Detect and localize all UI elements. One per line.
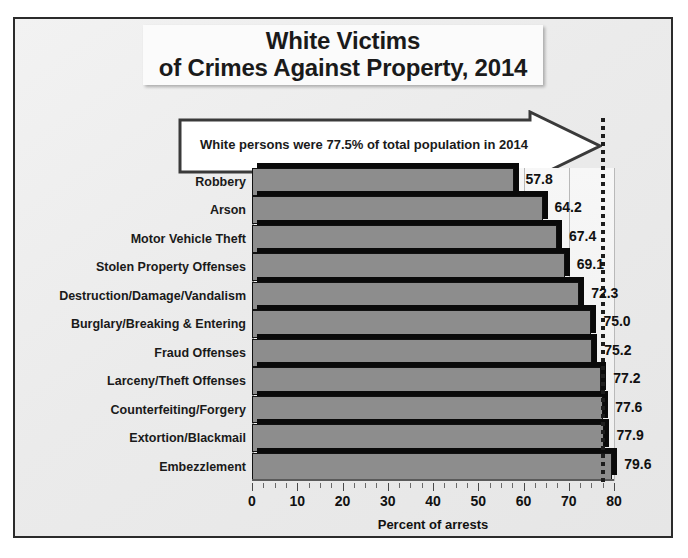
category-label-7: Fraud Offenses (24, 339, 246, 367)
minor-tick-77.5 (603, 483, 604, 488)
chart-screenshot: White Victims of Crimes Against Property… (0, 0, 688, 558)
category-label-11: Embezzlement (24, 453, 246, 481)
category-label-9: Counterfeiting/Forgery (24, 396, 246, 424)
x-tick-label-60: 60 (504, 493, 544, 509)
minor-tick-55 (501, 483, 502, 488)
minor-tick-2.5 (263, 483, 264, 488)
minor-tick-7.5 (286, 483, 287, 488)
major-tick-80 (614, 483, 615, 491)
minor-tick-12.5 (309, 483, 310, 488)
callout-text: White persons were 77.5% of total popula… (200, 129, 530, 159)
x-axis-line (252, 479, 614, 481)
value-label-3: 67.4 (569, 222, 596, 250)
major-tick-30 (388, 483, 389, 491)
major-tick-70 (569, 483, 570, 491)
bar-chart: RobberyArsonMotor Vehicle TheftStolen Pr… (24, 160, 654, 520)
minor-tick-65 (546, 483, 547, 488)
x-tick-label-50: 50 (458, 493, 498, 509)
category-label-6: Burglary/Breaking & Entering (24, 310, 246, 338)
x-tick-label-40: 40 (413, 493, 453, 509)
x-axis-title: Percent of arrests (252, 517, 614, 532)
value-label-6: 75.0 (603, 307, 630, 335)
x-tick-label-30: 30 (368, 493, 408, 509)
minor-tick-22.5 (354, 483, 355, 488)
bar-11[interactable] (252, 453, 618, 481)
minor-tick-25 (365, 483, 366, 488)
category-label-4: Stolen Property Offenses (24, 253, 246, 281)
category-label-3: Motor Vehicle Theft (24, 225, 246, 253)
minor-tick-27.5 (376, 483, 377, 488)
chart-title-box: White Victims of Crimes Against Property… (143, 25, 543, 85)
major-tick-50 (478, 483, 479, 491)
major-tick-10 (297, 483, 298, 491)
minor-tick-52.5 (490, 483, 491, 488)
category-label-10: Extortion/Blackmail (24, 424, 246, 452)
x-tick-label-10: 10 (277, 493, 317, 509)
minor-tick-35 (410, 483, 411, 488)
minor-tick-37.5 (422, 483, 423, 488)
chart-title-line-1: White Victims (266, 28, 420, 55)
minor-tick-72.5 (580, 483, 581, 488)
x-tick-label-20: 20 (323, 493, 363, 509)
minor-tick-62.5 (535, 483, 536, 488)
value-label-2: 64.2 (555, 193, 582, 221)
minor-tick-57.5 (512, 483, 513, 488)
category-label-5: Destruction/Damage/Vandalism (24, 282, 246, 310)
value-label-4: 69.1 (577, 250, 604, 278)
minor-tick-75 (591, 483, 592, 488)
x-tick-label-80: 80 (594, 493, 634, 509)
chart-title-line-2: of Crimes Against Property, 2014 (159, 55, 527, 82)
value-label-1: 57.8 (526, 165, 553, 193)
minor-tick-15 (320, 483, 321, 488)
major-tick-0 (252, 483, 253, 491)
minor-tick-42.5 (444, 483, 445, 488)
bar-face (252, 453, 612, 481)
category-label-8: Larceny/Theft Offenses (24, 367, 246, 395)
minor-tick-5 (275, 483, 276, 488)
minor-tick-32.5 (399, 483, 400, 488)
x-tick-label-70: 70 (549, 493, 589, 509)
minor-tick-67.5 (557, 483, 558, 488)
value-label-9: 77.6 (615, 393, 642, 421)
value-label-11: 79.6 (624, 450, 651, 478)
minor-tick-47.5 (467, 483, 468, 488)
value-label-8: 77.2 (613, 364, 640, 392)
major-tick-60 (524, 483, 525, 491)
value-label-10: 77.9 (616, 421, 643, 449)
major-tick-40 (433, 483, 434, 491)
value-label-5: 72.3 (591, 279, 618, 307)
major-tick-20 (343, 483, 344, 491)
x-tick-label-0: 0 (232, 493, 272, 509)
minor-tick-17.5 (331, 483, 332, 488)
value-label-7: 75.2 (604, 336, 631, 364)
minor-tick-45 (456, 483, 457, 488)
category-label-1: Robbery (24, 168, 246, 196)
category-label-2: Arson (24, 196, 246, 224)
